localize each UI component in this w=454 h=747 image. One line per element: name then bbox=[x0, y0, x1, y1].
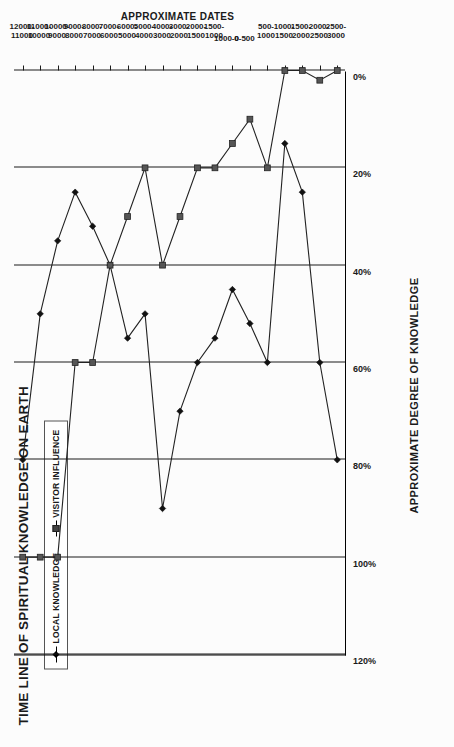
series-line-local-knowledge bbox=[23, 143, 338, 508]
chart-stage: TIME LINE OF SPIRITUAL KNOWLEDGE ON EART… bbox=[0, 0, 454, 747]
category-label-line2: 3000 bbox=[327, 30, 345, 39]
category-tick bbox=[250, 65, 251, 70]
square-marker-icon bbox=[142, 164, 148, 170]
category-tick bbox=[93, 65, 94, 70]
diamond-marker-icon bbox=[317, 359, 323, 365]
diamond-marker-icon bbox=[54, 237, 60, 243]
square-marker-icon bbox=[317, 77, 323, 83]
square-marker-icon bbox=[230, 140, 236, 146]
square-marker-icon bbox=[125, 213, 131, 219]
chart-figure: TIME LINE OF SPIRITUAL KNOWLEDGE ON EART… bbox=[0, 0, 454, 747]
series-line-visitor-influence bbox=[23, 70, 338, 557]
category-axis-tick-label: 2500-3000 bbox=[313, 21, 359, 39]
category-tick bbox=[180, 65, 181, 70]
category-tick bbox=[110, 65, 111, 70]
diamond-marker-icon bbox=[264, 359, 270, 365]
category-tick bbox=[128, 65, 129, 70]
category-tick bbox=[197, 65, 198, 70]
value-axis-tick-label: 120% bbox=[353, 655, 376, 665]
square-marker-icon bbox=[72, 359, 78, 365]
category-label-line1: 2500- bbox=[326, 21, 346, 30]
diamond-marker-icon bbox=[212, 334, 218, 340]
category-tick bbox=[23, 65, 24, 70]
square-marker-icon bbox=[282, 67, 288, 73]
square-marker-icon bbox=[20, 554, 26, 560]
plot-area bbox=[14, 71, 346, 655]
value-axis-tick-label: 0% bbox=[353, 71, 366, 81]
category-axis-title: APPROXIMATE DATES bbox=[113, 11, 243, 22]
square-marker-icon bbox=[160, 262, 166, 268]
square-marker-icon bbox=[55, 554, 61, 560]
category-tick bbox=[40, 65, 41, 70]
category-tick bbox=[215, 65, 216, 70]
diamond-marker-icon bbox=[20, 456, 26, 462]
value-axis-tick-label: 20% bbox=[353, 168, 371, 178]
diamond-marker-icon bbox=[142, 310, 148, 316]
square-marker-icon bbox=[212, 164, 218, 170]
square-marker-icon bbox=[247, 116, 253, 122]
value-axis-tick-label: 40% bbox=[353, 266, 371, 276]
diamond-marker-icon bbox=[177, 407, 183, 413]
diamond-marker-icon bbox=[282, 140, 288, 146]
diamond-marker-icon bbox=[37, 310, 43, 316]
value-axis-tick-label: 60% bbox=[353, 363, 371, 373]
category-tick bbox=[267, 65, 268, 70]
value-axis-title: APPROXIMATE DEGREE OF KNOWLEDGE bbox=[408, 277, 420, 513]
category-tick bbox=[163, 65, 164, 70]
value-axis-tick-label: 100% bbox=[353, 558, 376, 568]
diamond-marker-icon bbox=[334, 456, 340, 462]
square-marker-icon bbox=[334, 67, 340, 73]
square-marker-icon bbox=[299, 67, 305, 73]
diamond-marker-icon bbox=[247, 320, 253, 326]
square-marker-icon bbox=[264, 164, 270, 170]
category-tick bbox=[232, 65, 233, 70]
category-tick bbox=[320, 65, 321, 70]
square-marker-icon bbox=[37, 554, 43, 560]
value-axis-tick-label: 80% bbox=[353, 460, 371, 470]
diamond-marker-icon bbox=[299, 188, 305, 194]
diamond-marker-icon bbox=[159, 505, 165, 511]
series-layer bbox=[14, 70, 346, 654]
diamond-marker-icon bbox=[229, 286, 235, 292]
category-tick bbox=[75, 65, 76, 70]
diamond-marker-icon bbox=[89, 223, 95, 229]
square-marker-icon bbox=[107, 262, 113, 268]
category-tick bbox=[145, 65, 146, 70]
diamond-marker-icon bbox=[72, 188, 78, 194]
square-marker-icon bbox=[177, 213, 183, 219]
square-marker-icon bbox=[90, 359, 96, 365]
category-label-line1: 1500- bbox=[204, 21, 224, 30]
square-marker-icon bbox=[195, 164, 201, 170]
category-tick bbox=[58, 65, 59, 70]
